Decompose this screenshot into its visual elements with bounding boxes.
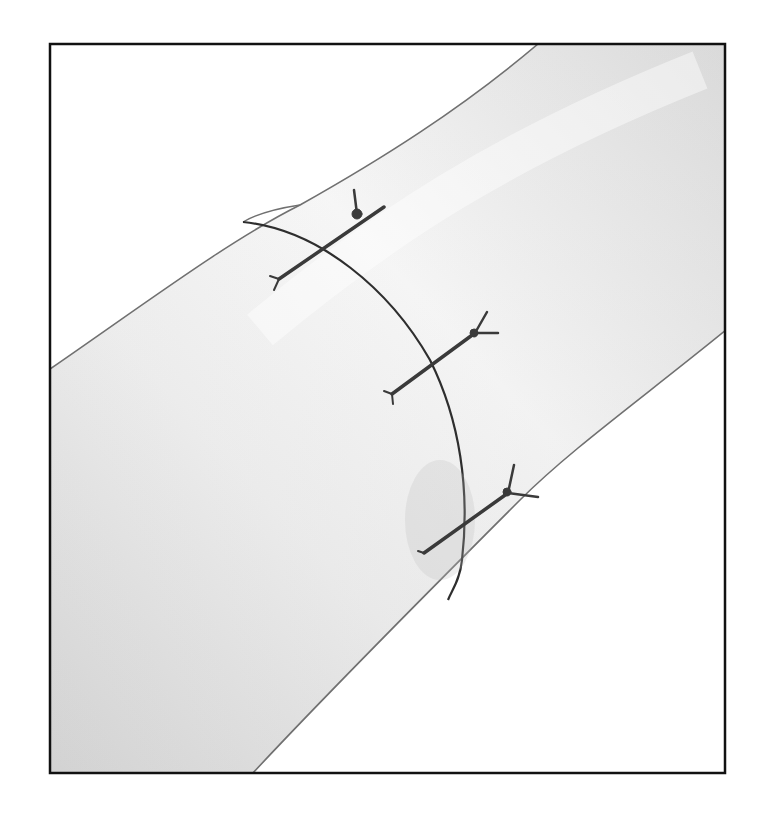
anastomosis-illustration bbox=[0, 0, 759, 813]
